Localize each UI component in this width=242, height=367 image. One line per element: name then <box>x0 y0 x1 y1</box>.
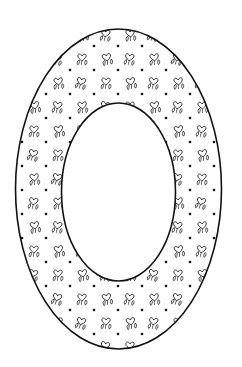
dot-icon <box>69 285 72 288</box>
dot-icon <box>165 69 168 72</box>
dot-icon <box>165 261 168 264</box>
dot-icon <box>93 285 96 288</box>
dot-icon <box>69 117 72 120</box>
dot-icon <box>213 213 216 216</box>
dot-icon <box>117 309 120 312</box>
dot-icon <box>69 309 72 312</box>
dot-icon <box>189 141 192 144</box>
dot-icon <box>45 117 48 120</box>
dot-icon <box>45 165 48 168</box>
background <box>0 0 242 367</box>
dot-icon <box>189 285 192 288</box>
dot-icon <box>93 93 96 96</box>
dot-icon <box>141 93 144 96</box>
dot-icon <box>45 237 48 240</box>
dot-icon <box>69 93 72 96</box>
dot-icon <box>117 285 120 288</box>
dot-icon <box>45 189 48 192</box>
dot-icon <box>117 93 120 96</box>
dot-icon <box>213 189 216 192</box>
dot-icon <box>165 309 168 312</box>
dot-icon <box>189 189 192 192</box>
dot-icon <box>21 165 24 168</box>
dot-icon <box>141 285 144 288</box>
dot-icon <box>141 45 144 48</box>
dot-icon <box>141 333 144 336</box>
dot-icon <box>117 69 120 72</box>
dot-icon <box>165 117 168 120</box>
dot-icon <box>21 189 24 192</box>
dot-icon <box>69 261 72 264</box>
dot-icon <box>189 237 192 240</box>
dot-icon <box>21 141 24 144</box>
dot-icon <box>141 69 144 72</box>
dot-icon <box>45 285 48 288</box>
dot-icon <box>93 69 96 72</box>
dot-icon <box>45 93 48 96</box>
dot-icon <box>117 333 120 336</box>
dot-icon <box>213 141 216 144</box>
dot-icon <box>93 45 96 48</box>
dot-icon <box>165 93 168 96</box>
dot-icon <box>189 165 192 168</box>
dot-icon <box>213 237 216 240</box>
dot-icon <box>189 261 192 264</box>
dot-icon <box>45 213 48 216</box>
dot-icon <box>189 117 192 120</box>
dot-icon <box>165 285 168 288</box>
dot-icon <box>69 69 72 72</box>
dot-icon <box>189 93 192 96</box>
dot-icon <box>213 165 216 168</box>
dot-icon <box>141 309 144 312</box>
dot-icon <box>93 333 96 336</box>
dot-icon <box>45 141 48 144</box>
dot-icon <box>21 213 24 216</box>
dot-icon <box>93 309 96 312</box>
dot-icon <box>189 213 192 216</box>
dot-icon <box>45 261 48 264</box>
coloring-page <box>0 0 242 367</box>
dot-icon <box>117 45 120 48</box>
